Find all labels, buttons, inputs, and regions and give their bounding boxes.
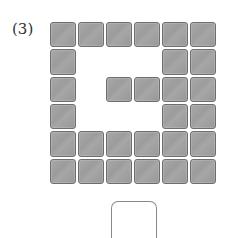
tile <box>78 22 104 47</box>
tile <box>190 49 216 74</box>
tile <box>50 104 76 129</box>
tile-grid <box>50 22 218 186</box>
tile <box>190 104 216 129</box>
tile <box>162 104 188 129</box>
tile <box>190 22 216 47</box>
tile <box>162 131 188 156</box>
tile <box>162 22 188 47</box>
tile <box>106 77 132 102</box>
tile <box>190 159 216 184</box>
tile <box>78 131 104 156</box>
answer-box[interactable] <box>111 201 157 238</box>
tile <box>78 159 104 184</box>
tile <box>50 159 76 184</box>
tile <box>50 49 76 74</box>
tile <box>190 131 216 156</box>
tile <box>106 159 132 184</box>
tile <box>134 159 160 184</box>
tile <box>134 22 160 47</box>
tile <box>106 22 132 47</box>
tile <box>162 49 188 74</box>
tile <box>134 131 160 156</box>
tile <box>162 77 188 102</box>
problem-number: (3) <box>12 20 33 38</box>
tile <box>190 77 216 102</box>
tile <box>50 77 76 102</box>
tile <box>106 131 132 156</box>
tile <box>50 22 76 47</box>
tile <box>162 159 188 184</box>
tile <box>50 131 76 156</box>
tile <box>134 77 160 102</box>
